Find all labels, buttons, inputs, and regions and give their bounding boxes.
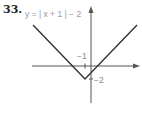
- equation-label: y = | x + 1 | − 2: [25, 9, 81, 19]
- x-axis-arrow-icon: [133, 64, 140, 69]
- y-axis-arrow-icon: [89, 6, 94, 13]
- y-tick-label: −2: [94, 75, 104, 85]
- x-tick-label: −1: [77, 51, 87, 61]
- graph: y = | x + 1 | − 2 −1 −2: [0, 0, 142, 113]
